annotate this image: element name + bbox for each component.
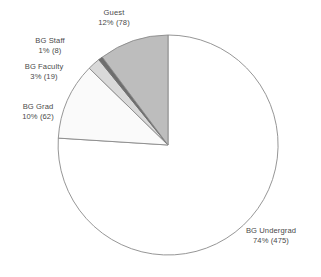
- pie-chart-figure: Guest 12% (78) BG Staff 1% (8) BG Facult…: [0, 0, 321, 277]
- pie-label-bg-undergrad: BG Undergrad 74% (475): [228, 226, 314, 246]
- pie-label-bg-staff-value: 1% (8): [12, 46, 88, 56]
- pie-label-bg-faculty-value: 3% (19): [6, 72, 82, 82]
- pie-label-bg-grad-name: BG Grad: [2, 102, 74, 112]
- pie-label-bg-staff: BG Staff 1% (8): [12, 36, 88, 56]
- pie-label-bg-faculty-name: BG Faculty: [6, 62, 82, 72]
- pie-label-guest-name: Guest: [76, 8, 152, 18]
- pie-label-guest-value: 12% (78): [76, 18, 152, 28]
- pie-label-bg-undergrad-value: 74% (475): [228, 236, 314, 246]
- pie-label-bg-staff-name: BG Staff: [12, 36, 88, 46]
- pie-label-bg-undergrad-name: BG Undergrad: [228, 226, 314, 236]
- pie-label-bg-grad-value: 10% (62): [2, 112, 74, 122]
- pie-label-bg-grad: BG Grad 10% (62): [2, 102, 74, 122]
- pie-label-bg-faculty: BG Faculty 3% (19): [6, 62, 82, 82]
- pie-label-guest: Guest 12% (78): [76, 8, 152, 28]
